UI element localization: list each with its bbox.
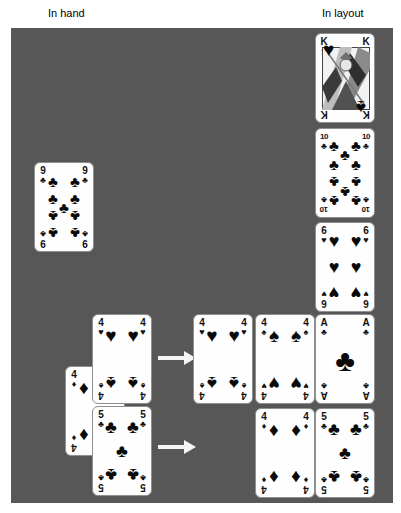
clubs-pip-icon: ♣ (351, 157, 361, 172)
clubs-pip-icon: ♣ (48, 173, 58, 188)
clubs-pip-icon: ♣ (350, 420, 362, 438)
clubs-pip-icon: ♣ (48, 208, 58, 223)
corner-index-bl: A♣ (318, 382, 330, 400)
hearts-pip-icon: ♥ (329, 232, 340, 250)
spades-icon: ♠ (137, 382, 149, 390)
hearts-icon: ♥ (300, 382, 312, 390)
card-4-hearts-4-spades-layout[interactable]: 4♥4♥4♠4♠♥♥♠♠ (193, 314, 253, 404)
in-layout-label: In layout (322, 7, 364, 19)
corner-index-br: 10♣ (360, 196, 372, 214)
card-10-clubs-layout[interactable]: 10♣10♣10♣10♣♣♣♣♣♣♣♣♣♣♣ (315, 128, 375, 218)
hearts-icon: ♥ (137, 328, 149, 336)
clubs-icon: ♣ (79, 230, 91, 238)
card-6-hearts-layout[interactable]: 6♥6♥6♥6♥♥♥♥♥♥♥ (315, 222, 375, 312)
clubs-pip-icon: ♣ (351, 194, 361, 209)
corner-index-tr: 4♦ (300, 412, 312, 430)
corner-index-br: 9♣ (79, 230, 91, 248)
in-hand-label: In hand (48, 7, 85, 19)
hearts-pip-icon: ♥ (127, 326, 138, 345)
hearts-pip-icon: ♥ (329, 258, 340, 276)
diamonds-pip-icon: ♦ (291, 420, 301, 439)
corner-index-br: 6♥ (360, 290, 372, 308)
card-4-hearts-4-spades-hand[interactable]: 4♥4♥4♠4♠♥♥♠♠ (92, 314, 152, 404)
clubs-pip-icon: ♣ (335, 346, 355, 376)
card-ace-clubs-layout[interactable]: A♣A♣A♣A♣♣ (315, 314, 375, 404)
hearts-pip-icon: ♥ (268, 373, 279, 392)
clubs-pip-icon: ♣ (127, 418, 139, 436)
clubs-pip-icon: ♣ (105, 466, 117, 484)
clubs-pip-icon: ♣ (340, 146, 350, 161)
corner-index-tr: 4♠ (300, 318, 312, 336)
clubs-icon: ♣ (318, 382, 330, 390)
clubs-pip-icon: ♣ (127, 466, 139, 484)
spades-pip-icon: ♠ (106, 373, 116, 392)
clubs-icon: ♣ (318, 328, 330, 336)
clubs-pip-icon: ♣ (48, 226, 58, 241)
clubs-icon: ♣ (360, 328, 372, 336)
clubs-pip-icon: ♣ (70, 208, 80, 223)
clubs-pip-icon: ♣ (70, 173, 80, 188)
hearts-pip-icon: ♥ (351, 284, 362, 302)
corner-index-br: 4♠ (238, 382, 250, 400)
clubs-pip-icon: ♣ (329, 157, 339, 172)
corner-index-tl: A♣ (318, 318, 330, 336)
clubs-icon: ♣ (360, 142, 372, 150)
hearts-icon: ♥ (238, 328, 250, 336)
clubs-pip-icon: ♣ (70, 191, 80, 206)
diamonds-pip-icon: ♦ (269, 467, 279, 486)
spades-pip-icon: ♠ (269, 326, 279, 345)
clubs-pip-icon: ♣ (351, 174, 361, 189)
clubs-icon: ♣ (360, 382, 372, 390)
spades-icon: ♠ (238, 382, 250, 390)
card-5-clubs-hand[interactable]: 5♣5♣5♣5♣♣♣♣♣♣ (92, 406, 152, 496)
hearts-pip-icon: ♥ (323, 39, 334, 58)
clubs-pip-icon: ♣ (329, 174, 339, 189)
hearts-pip-icon: ♥ (329, 284, 340, 302)
hearts-pip-icon: ♥ (351, 232, 362, 250)
clubs-pip-icon: ♣ (329, 137, 339, 152)
clubs-pip-icon: ♣ (59, 200, 69, 215)
clubs-pip-icon: ♣ (105, 418, 117, 436)
clubs-pip-icon: ♣ (329, 194, 339, 209)
move-arrow-bottom-icon (158, 439, 196, 455)
clubs-pip-icon: ♣ (339, 444, 351, 462)
diamonds-pip-icon: ♦ (291, 467, 301, 486)
spades-pip-icon: ♠ (207, 373, 217, 392)
diamonds-pip-icon: ♦ (269, 420, 279, 439)
clubs-icon: ♣ (360, 196, 372, 204)
card-5-clubs-layout[interactable]: 5♣5♣5♣5♣♣♣♣♣♣ (315, 408, 375, 498)
corner-index-tr: 4♥ (238, 318, 250, 336)
move-arrow-top-icon (158, 350, 196, 366)
clubs-pip-icon: ♣ (328, 420, 340, 438)
clubs-pip-icon: ♣ (48, 191, 58, 206)
hearts-pip-icon: ♥ (351, 258, 362, 276)
hearts-pip-icon: ♥ (206, 326, 217, 345)
corner-index-tr: 9♣ (79, 166, 91, 184)
hearts-pip-icon: ♥ (105, 326, 116, 345)
clubs-pip-icon: ♣ (340, 185, 350, 200)
corner-index-br: A♣ (360, 382, 372, 400)
card-4-diamonds-layout[interactable]: 4♦4♦4♦4♦♦♦♦♦ (255, 408, 315, 498)
corner-index-br: 4♥ (300, 382, 312, 400)
diamonds-pip-icon: ♦ (79, 378, 89, 397)
spades-pip-icon: ♠ (356, 98, 366, 117)
hearts-pip-icon: ♥ (290, 373, 301, 392)
clubs-pip-icon: ♣ (351, 137, 361, 152)
hearts-icon: ♥ (360, 290, 372, 298)
spades-pip-icon: ♠ (291, 326, 301, 345)
hearts-pip-icon: ♥ (228, 326, 239, 345)
card-king-hearts-king-spades[interactable]: K♥K♥K♠K♠♥♠ (315, 33, 375, 123)
hearts-icon: ♥ (360, 236, 372, 244)
card-9-clubs-hand[interactable]: 9♣9♣9♣9♣♣♣♣♣♣♣♣♣♣ (34, 162, 94, 252)
spades-pip-icon: ♠ (229, 373, 239, 392)
clubs-pip-icon: ♣ (116, 442, 128, 460)
diamonds-icon: ♦ (300, 476, 312, 484)
corner-index-tr: 10♣ (360, 132, 372, 150)
corner-index-tr: 4♥ (137, 318, 149, 336)
diamonds-icon: ♦ (300, 422, 312, 430)
diamonds-pip-icon: ♦ (79, 425, 89, 444)
corner-index-tr: 6♥ (360, 226, 372, 244)
solitaire-help-screenshot: In hand In layout 9♣9♣9♣9♣♣♣♣♣♣♣♣♣♣4♦4♦4… (0, 0, 401, 513)
clubs-pip-icon: ♣ (328, 468, 340, 486)
card-4-spades-4-hearts-layout[interactable]: 4♠4♠4♥4♥♠♠♥♥ (255, 314, 315, 404)
